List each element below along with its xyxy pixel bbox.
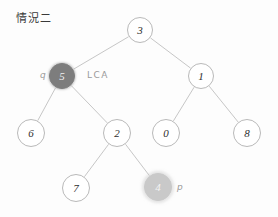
tree-edge-n2-n7 xyxy=(85,145,109,177)
diagram-canvas: 情況二 351620874 qLCAp xyxy=(0,0,278,217)
tree-node-6[interactable]: 6 xyxy=(17,119,45,147)
tree-node-3[interactable]: 3 xyxy=(127,17,153,43)
tree-node-label: 1 xyxy=(198,70,204,82)
tree-node-2[interactable]: 2 xyxy=(103,119,131,147)
annotation-p: p xyxy=(177,182,183,192)
tree-edge-n5-n6 xyxy=(38,88,56,120)
tree-node-8[interactable]: 8 xyxy=(233,119,261,147)
tree-node-5[interactable]: 5 xyxy=(49,63,75,89)
tree-edge-n1-n8 xyxy=(209,87,237,122)
annotation-lca: LCA xyxy=(87,70,109,80)
tree-node-label: 2 xyxy=(114,127,120,139)
tree-node-label: 4 xyxy=(155,181,161,193)
tree-node-0[interactable]: 0 xyxy=(152,119,180,147)
tree-node-1[interactable]: 1 xyxy=(188,63,214,89)
tree-node-label: 7 xyxy=(73,182,79,194)
tree-edge-n1-n0 xyxy=(174,88,194,121)
tree-edge-n3-n1 xyxy=(151,38,190,68)
tree-edge-n2-n4 xyxy=(126,145,149,176)
tree-node-label: 0 xyxy=(163,127,169,139)
tree-node-label: 8 xyxy=(244,127,250,139)
tree-node-7[interactable]: 7 xyxy=(62,174,90,202)
tree-node-label: 5 xyxy=(59,70,65,82)
tree-edge-n3-n5 xyxy=(74,37,129,69)
tree-node-label: 3 xyxy=(137,24,143,36)
annotation-q: q xyxy=(40,70,46,80)
tree-edge-n5-n2 xyxy=(71,86,107,123)
tree-node-label: 6 xyxy=(28,127,34,139)
tree-node-4[interactable]: 4 xyxy=(144,173,172,201)
